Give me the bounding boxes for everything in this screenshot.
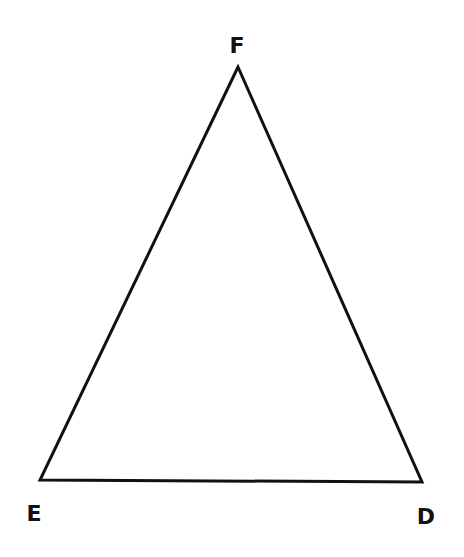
vertex-label-f: F	[229, 33, 244, 58]
vertex-label-e: E	[26, 501, 41, 526]
vertex-label-d: D	[417, 504, 435, 529]
triangle-def	[40, 67, 422, 482]
triangle-diagram: F E D	[0, 0, 464, 557]
